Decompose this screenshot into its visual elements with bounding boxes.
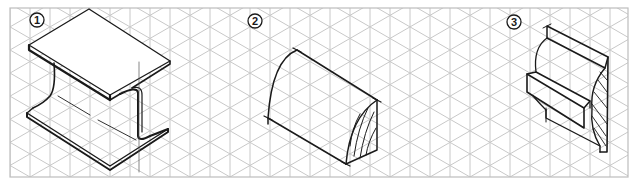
panel-2-half-round <box>264 48 381 166</box>
isometric-sketch-figure: 1 2 3 <box>0 0 639 192</box>
top-block <box>547 26 608 68</box>
panel-label-1-text: 1 <box>34 14 40 26</box>
panel-label-1: 1 <box>30 13 44 27</box>
curved-end-left <box>268 50 297 124</box>
panel-label-3-text: 3 <box>511 16 517 28</box>
bottom-edge <box>268 118 346 164</box>
panel-label-3: 3 <box>507 15 521 29</box>
panel-label-2-text: 2 <box>252 15 258 27</box>
panel-label-2: 2 <box>248 14 262 28</box>
